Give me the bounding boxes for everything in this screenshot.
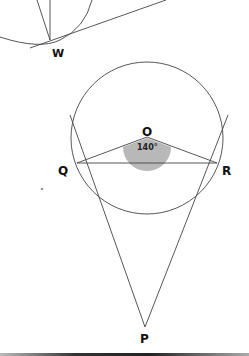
label-p: P (140, 332, 149, 346)
angle-label: 140° (137, 143, 158, 152)
label-o: O (142, 125, 152, 139)
label-r: R (222, 164, 231, 178)
label-w: W (52, 47, 64, 60)
upper-circle-arc (0, 0, 92, 44)
upper-circle-figure (0, 0, 166, 48)
lower-circle-figure (41, 62, 228, 327)
label-q: Q (58, 164, 68, 178)
stray-dot (41, 188, 44, 191)
chord-w-1 (37, 0, 50, 40)
geometry-figure: W 140° O Q R P (0, 0, 249, 356)
diagram-canvas: W 140° O Q R P (0, 0, 249, 356)
